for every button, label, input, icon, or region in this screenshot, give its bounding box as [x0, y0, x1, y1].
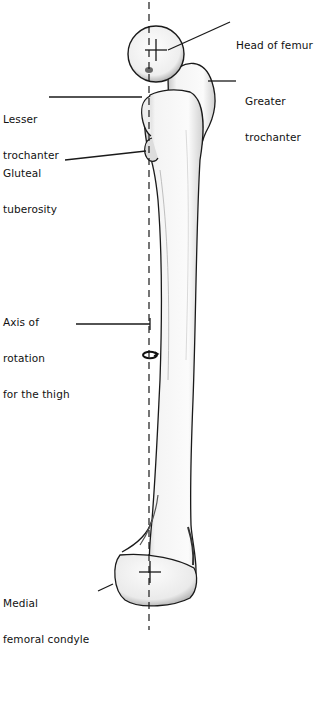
- lesser-trochanter-shape: [142, 96, 151, 136]
- label-gluteal-tuberosity: Gluteal tuberosity: [3, 143, 57, 227]
- leader-medial-condyle: [98, 584, 113, 591]
- leader-gluteal-tuberosity: [65, 151, 146, 160]
- label-axis-of-rotation: Axis of rotation for the thigh: [3, 292, 70, 412]
- label-greater-trochanter: Greater trochanter: [245, 71, 301, 155]
- label-medial-femoral-condyle: Medial femoral condyle: [3, 573, 89, 657]
- femur-bone: [122, 63, 215, 600]
- femur-shaft: [145, 90, 203, 600]
- rotation-arrow-icon: [143, 352, 158, 358]
- label-head-of-femur: Head of femur: [236, 15, 313, 63]
